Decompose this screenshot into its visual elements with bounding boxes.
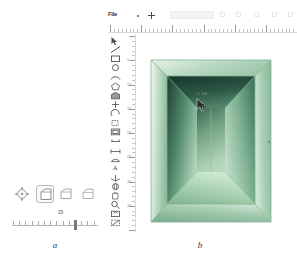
- horizontal-ruler-tick: [243, 29, 244, 32]
- toolbar-icon-4[interactable]: [272, 12, 277, 17]
- move-tool[interactable]: [13, 185, 31, 203]
- box-shape-tool[interactable]: [36, 185, 54, 203]
- toolbar-icon-5[interactable]: [288, 12, 293, 17]
- axes-icon: [109, 173, 122, 182]
- slider-value-label: 15: [58, 209, 63, 215]
- scale-tool[interactable]: [109, 118, 122, 127]
- horizontal-ruler-tick: [188, 29, 189, 32]
- green-box-model[interactable]: [147, 46, 275, 230]
- section-plane-tool[interactable]: [109, 218, 122, 227]
- horizontal-ruler-tick: [192, 29, 193, 32]
- pushpull-tool[interactable]: [109, 91, 122, 100]
- toolbar-icon-2[interactable]: [236, 12, 241, 17]
- axes-tool[interactable]: [109, 173, 122, 182]
- protractor-tool[interactable]: [109, 154, 122, 163]
- line-tool[interactable]: [109, 45, 122, 54]
- horizontal-ruler-tick: [133, 29, 134, 32]
- orbit-icon: [109, 182, 122, 191]
- zoom-tool[interactable]: [109, 200, 122, 209]
- tape-measure-tool[interactable]: [109, 136, 122, 145]
- vertical-ruler-tick: [132, 99, 135, 100]
- protractor-icon: [109, 154, 122, 163]
- vertical-ruler-tick: [129, 60, 135, 61]
- vertical-ruler-tick: [132, 55, 135, 56]
- move-tool[interactable]: [109, 100, 122, 109]
- vertical-ruler-label: 35: [127, 203, 131, 208]
- vertical-ruler-label: 10: [127, 82, 131, 87]
- horizontal-ruler-tick: [235, 25, 236, 32]
- text-icon: A: [109, 163, 122, 172]
- panel-a-slider-ruler[interactable]: [12, 219, 98, 229]
- horizontal-ruler-tick: [247, 29, 248, 32]
- ruler-tick: [13, 221, 14, 225]
- polygon-icon: [109, 82, 122, 91]
- toolbar-icon-1[interactable]: [220, 12, 225, 17]
- arc-tool[interactable]: [109, 72, 122, 81]
- horizontal-ruler-tick: [141, 25, 142, 32]
- vertical-ruler-tick: [132, 94, 135, 95]
- horizontal-ruler-tick: [254, 29, 255, 32]
- plus-icon[interactable]: [148, 12, 155, 19]
- circle-tool[interactable]: [109, 63, 122, 72]
- horizontal-ruler-tick: [157, 29, 158, 32]
- slider-handle[interactable]: [74, 220, 77, 230]
- rotate-tool[interactable]: [109, 109, 122, 118]
- panel-b: File A 5101520253035: [105, 0, 297, 266]
- text-tool[interactable]: A: [109, 163, 122, 172]
- vertical-ruler-label: 15: [127, 106, 131, 111]
- horizontal-ruler-tick: [250, 29, 251, 32]
- vertical-ruler-tick: [132, 220, 135, 221]
- shape-tool-palette: [13, 183, 97, 205]
- model-canvas[interactable]: 0, 108: [145, 44, 280, 232]
- vertical-ruler-tick: [132, 46, 135, 47]
- ruler-tick: [44, 221, 45, 225]
- horizontal-ruler-tick: [231, 29, 232, 32]
- ruler-tick: [38, 221, 39, 225]
- vertical-ruler-tick: [132, 104, 135, 105]
- toolbar-text-field[interactable]: [170, 11, 214, 19]
- vertical-ruler-tick: [132, 138, 135, 139]
- zoom-extents-tool[interactable]: [109, 209, 122, 218]
- toolbar-dot-icon[interactable]: [137, 15, 139, 17]
- vertical-ruler-tick: [129, 36, 135, 37]
- vertical-ruler-tick: [132, 128, 135, 129]
- arc-icon: [109, 72, 122, 81]
- horizontal-ruler-tick: [161, 29, 162, 32]
- select-arrow-tool[interactable]: [109, 36, 122, 45]
- horizontal-ruler-tick: [293, 29, 294, 32]
- toolbar-icon-3[interactable]: [254, 12, 259, 17]
- ruler-icon: [109, 136, 122, 145]
- horizontal-ruler-tick: [176, 29, 177, 32]
- scale-icon: [109, 118, 122, 127]
- vertical-ruler-tick: [132, 51, 135, 52]
- ruler-tick: [63, 221, 64, 225]
- dimension-tool[interactable]: [109, 145, 122, 154]
- vertical-ruler-tick: [132, 201, 135, 202]
- offset-icon: [109, 127, 122, 136]
- horizontal-ruler-tick: [215, 29, 216, 32]
- horizontal-ruler-tick: [118, 29, 119, 32]
- horizontal-ruler-tick: [289, 29, 290, 32]
- offset-tool[interactable]: [109, 127, 122, 136]
- rectangle-tool[interactable]: [109, 54, 122, 63]
- horizontal-ruler-tick: [270, 29, 271, 32]
- ramp-shape-tool[interactable]: [81, 185, 98, 203]
- app-menu-label[interactable]: File: [108, 11, 117, 17]
- vertical-ruler-tick: [132, 167, 135, 168]
- horizontal-ruler-tick: [266, 25, 267, 32]
- polygon-tool[interactable]: [109, 82, 122, 91]
- wedge-shape-tool[interactable]: [59, 185, 76, 203]
- horizontal-ruler-axis: [108, 32, 297, 33]
- top-toolbar: File: [108, 10, 294, 23]
- vertical-ruler-tick: [132, 80, 135, 81]
- horizontal-ruler-tick: [122, 29, 123, 32]
- vertical-toolbar: A: [109, 36, 124, 231]
- vertical-ruler-tick: [132, 186, 135, 187]
- ruler-tick: [81, 221, 82, 225]
- pan-tool[interactable]: [109, 191, 122, 200]
- wedge-shape-icon: [59, 185, 74, 203]
- orbit-tool[interactable]: [109, 182, 122, 191]
- vertical-ruler-label: 20: [127, 130, 131, 135]
- horizontal-ruler-tick: [169, 29, 170, 32]
- horizontal-ruler-tick: [274, 29, 275, 32]
